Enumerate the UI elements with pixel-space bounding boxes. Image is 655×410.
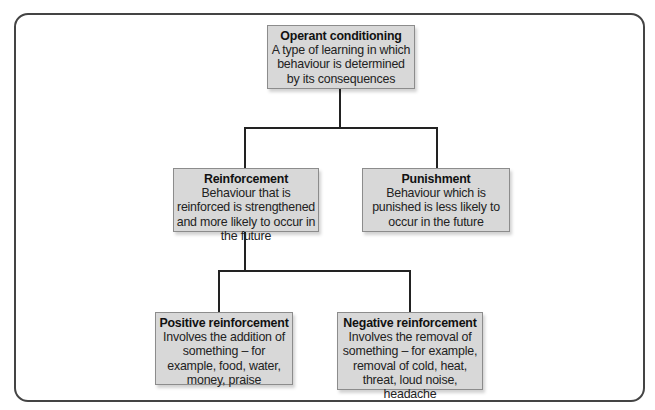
connector-to-punishment xyxy=(436,127,438,168)
connector-level2-bar xyxy=(244,127,438,129)
node-reinforcement: Reinforcement Behaviour that is reinforc… xyxy=(173,168,319,232)
node-title: Operant conditioning xyxy=(270,29,412,43)
connector-root-stem xyxy=(339,88,341,129)
connector-to-negative xyxy=(409,270,411,312)
node-description: Involves the removal of something – for … xyxy=(340,330,480,401)
node-description: A type of learning in which behaviour is… xyxy=(270,43,412,86)
node-title: Positive reinforcement xyxy=(158,316,290,330)
connector-level3-bar xyxy=(218,270,411,272)
node-description: Involves the addition of something – for… xyxy=(158,330,290,387)
connector-to-reinforcement xyxy=(244,127,246,168)
node-punishment: Punishment Behaviour which is punished i… xyxy=(362,168,510,232)
node-description: Behaviour that is reinforced is strength… xyxy=(176,186,316,243)
node-negative-reinforcement: Negative reinforcement Involves the remo… xyxy=(337,312,483,390)
node-operant-conditioning: Operant conditioning A type of learning … xyxy=(267,25,415,89)
node-title: Reinforcement xyxy=(176,172,316,186)
connector-to-positive xyxy=(218,270,220,312)
node-title: Punishment xyxy=(365,172,507,186)
node-title: Negative reinforcement xyxy=(340,316,480,330)
node-positive-reinforcement: Positive reinforcement Involves the addi… xyxy=(155,312,293,385)
node-description: Behaviour which is punished is less like… xyxy=(365,186,507,229)
